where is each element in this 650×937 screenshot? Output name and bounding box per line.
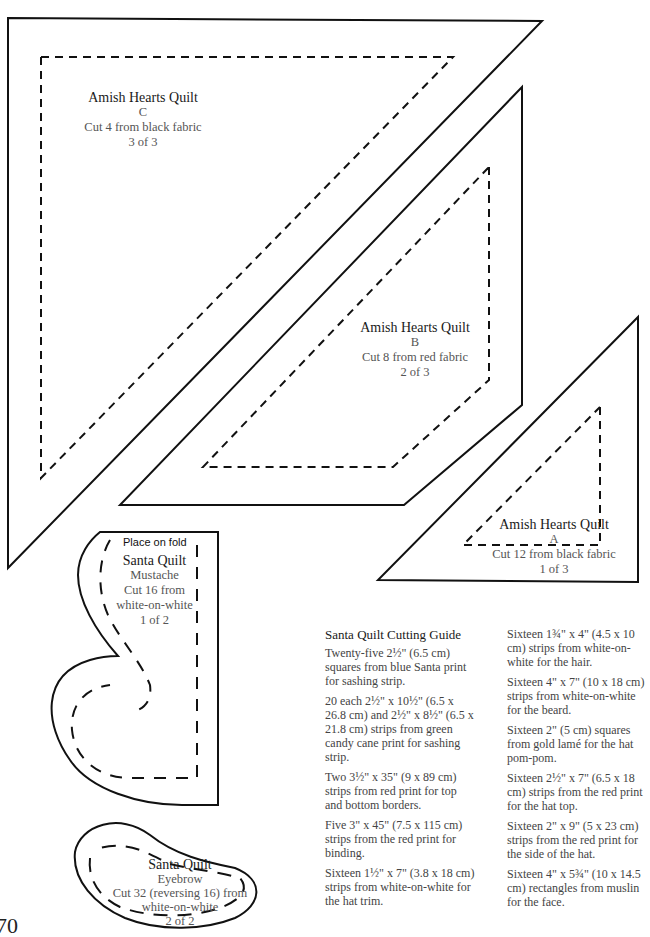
cutting-guide-item: 20 each 2½" x 10½" (6.5 x 26.8 cm) and 2… <box>325 694 475 764</box>
mustache-page: 1 of 2 <box>107 613 202 628</box>
cutting-guide-item: Sixteen 2½" x 7" (6.5 x 18 cm) strips fr… <box>507 771 650 813</box>
mustache-instruction-1: Cut 16 from <box>107 583 202 598</box>
eyebrow-page: 2 of 2 <box>95 914 265 928</box>
eyebrow-instruction-2: white-on-white <box>95 900 265 914</box>
cutting-guide-item: Twenty-five 2½" (6.5 cm) squares from bl… <box>325 646 475 688</box>
cutting-guide-item: Sixteen 1½" x 7" (3.8 x 18 cm) strips fr… <box>325 866 475 908</box>
cutting-guide-item: Five 3" x 45" (7.5 x 115 cm) strips from… <box>325 818 475 860</box>
template-a-piece: A <box>479 532 629 547</box>
mustache-title: Santa Quilt <box>107 553 202 568</box>
template-b-piece: B <box>340 335 490 350</box>
cutting-guide-right: Sixteen 1¾" x 4" (4.5 x 10 cm) strips fr… <box>507 627 650 915</box>
template-b-label: Amish Hearts Quilt B Cut 8 from red fabr… <box>340 320 490 380</box>
eyebrow-piece: Eyebrow <box>95 872 265 886</box>
cutting-guide-left: Santa Quilt Cutting Guide Twenty-five 2½… <box>325 628 475 914</box>
template-b-seam <box>203 167 489 467</box>
cutting-guide-heading: Santa Quilt Cutting Guide <box>325 628 475 642</box>
mustache-piece: Mustache <box>107 568 202 583</box>
eyebrow-title: Santa Quilt <box>95 858 265 872</box>
template-a-page: 1 of 3 <box>479 562 629 577</box>
cutting-guide-item: Sixteen 4" x 7" (10 x 18 cm) strips from… <box>507 675 650 717</box>
cutting-guide-item: Sixteen 1¾" x 4" (4.5 x 10 cm) strips fr… <box>507 627 650 669</box>
template-b-page: 2 of 3 <box>340 365 490 380</box>
mustache-instruction-2: white-on-white <box>107 598 202 613</box>
template-a-instruction: Cut 12 from black fabric <box>479 547 629 562</box>
template-c-title: Amish Hearts Quilt <box>68 90 218 105</box>
cutting-guide-item: Two 3½" x 35" (9 x 89 cm) strips from re… <box>325 770 475 812</box>
template-a-label: Amish Hearts Quilt A Cut 12 from black f… <box>479 517 629 577</box>
template-c-instruction: Cut 4 from black fabric <box>68 120 218 135</box>
eyebrow-label: Santa Quilt Eyebrow Cut 32 (reversing 16… <box>95 858 265 928</box>
mustache-label: Santa Quilt Mustache Cut 16 from white-o… <box>107 553 202 628</box>
template-b-title: Amish Hearts Quilt <box>340 320 490 335</box>
page-number: 70 <box>0 913 18 937</box>
cutting-guide-item: Sixteen 2" x 9" (5 x 23 cm) strips from … <box>507 819 650 861</box>
template-c-label: Amish Hearts Quilt C Cut 4 from black fa… <box>68 90 218 150</box>
template-c-piece: C <box>68 105 218 120</box>
template-a-title: Amish Hearts Quilt <box>479 517 629 532</box>
place-on-fold-note: Place on fold <box>123 536 187 548</box>
template-b-instruction: Cut 8 from red fabric <box>340 350 490 365</box>
eyebrow-instruction-1: Cut 32 (reversing 16) from <box>95 886 265 900</box>
template-c-page: 3 of 3 <box>68 135 218 150</box>
cutting-guide-item: Sixteen 2" (5 cm) squares from gold lamé… <box>507 723 650 765</box>
cutting-guide-item: Sixteen 4" x 5¾" (10 x 14.5 cm) rectangl… <box>507 867 650 909</box>
